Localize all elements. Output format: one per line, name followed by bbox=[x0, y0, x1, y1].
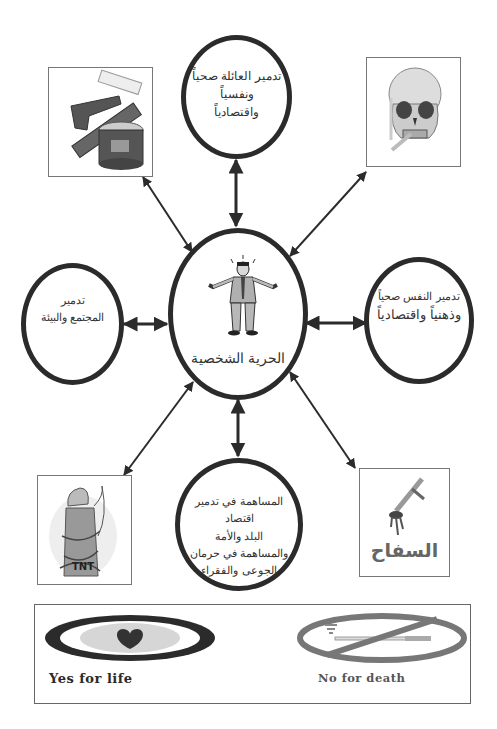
tobacco-products-icon bbox=[49, 68, 152, 176]
arrow-bottom-right bbox=[290, 372, 355, 468]
yes-for-life-label: Yes for life bbox=[49, 671, 133, 686]
node-bottom-line-1: المساهمة في تدمير اقتصاد bbox=[180, 493, 298, 528]
node-society-damage: تدمير المجتمع والبيئة bbox=[21, 263, 124, 385]
stressed-man-icon bbox=[203, 255, 283, 340]
node-bottom-line-3: والمساهمة في حرمان bbox=[180, 545, 298, 562]
image-tnt-smoker: TNT bbox=[37, 475, 132, 585]
node-personal-freedom: الحرية الشخصية bbox=[168, 228, 308, 400]
heart-oval-icon bbox=[43, 613, 218, 663]
smoking-skull-icon bbox=[367, 58, 460, 166]
image-tobacco-products bbox=[48, 67, 153, 177]
node-top-line-3: واقتصادياً bbox=[186, 104, 287, 122]
no-smoking-icon bbox=[297, 613, 467, 663]
node-top-line-2: ونفسياً bbox=[186, 86, 287, 104]
slogan-banner: Yes for life No for death bbox=[34, 604, 471, 704]
node-right-line-2: وذهنياً واقتصادياً bbox=[369, 305, 469, 324]
node-right-line-1: تدمير النفس صحياً bbox=[369, 288, 469, 305]
image-bloody-dagger: السفاح bbox=[359, 468, 450, 577]
node-bottom-line-4: الجوعى والفقراء bbox=[180, 562, 298, 579]
image-smoking-skull bbox=[366, 57, 461, 167]
node-self-damage: تدمير النفس صحياً وذهنياً واقتصادياً bbox=[364, 257, 474, 384]
node-family-damage: تدمير العائلة صحياً ونفسياً واقتصادياً bbox=[181, 35, 292, 159]
dagger-caption: السفاح bbox=[360, 539, 449, 561]
node-left-line-2: المجتمع والبيئة bbox=[26, 309, 119, 326]
arrow-top-left bbox=[143, 177, 192, 252]
node-top-line-1: تدمير العائلة صحياً bbox=[186, 68, 287, 86]
no-for-death-label: No for death bbox=[318, 671, 405, 685]
node-bottom-line-2: البلد والأمة bbox=[180, 528, 298, 545]
tnt-barrel-smoker-icon: TNT bbox=[38, 476, 131, 584]
node-left-line-1: تدمير bbox=[26, 292, 119, 309]
bloody-dagger-icon bbox=[360, 469, 449, 539]
arrow-top-right bbox=[290, 172, 366, 256]
center-title: الحرية الشخصية bbox=[173, 348, 303, 370]
arrow-bottom-left bbox=[124, 382, 193, 475]
svg-text:TNT: TNT bbox=[72, 561, 94, 572]
node-economy-damage: المساهمة في تدمير اقتصاد البلد والأمة وا… bbox=[175, 458, 303, 591]
